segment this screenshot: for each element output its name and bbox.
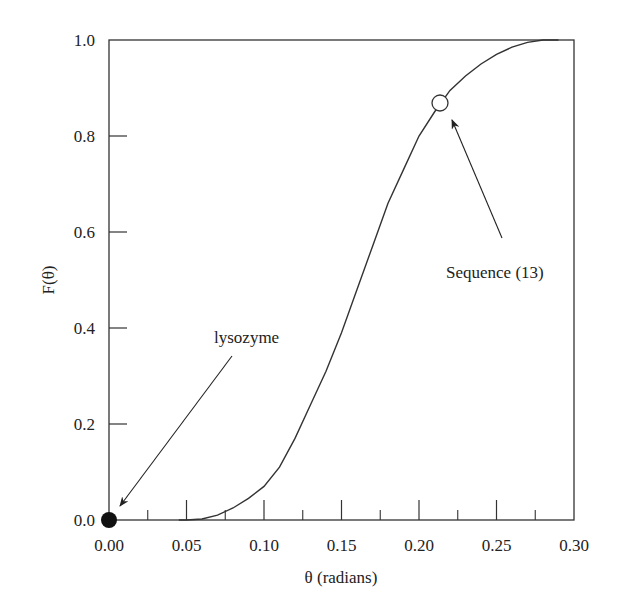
x-tick-label: 0.15 (327, 536, 357, 555)
lysozyme-marker (101, 512, 117, 528)
x-tick-label: 0.10 (249, 536, 279, 555)
sequence-arrow (452, 120, 502, 238)
x-tick-label: 0.00 (94, 536, 124, 555)
lysozyme-label: lysozyme (214, 328, 279, 347)
x-axis-ticks: 0.000.050.100.150.200.250.30 (94, 500, 589, 555)
y-tick-label: 1.0 (74, 31, 95, 50)
sequence-label: Sequence (13) (446, 263, 544, 282)
sequence-13-marker (432, 95, 448, 111)
y-tick-label: 0.4 (74, 319, 96, 338)
chart: 0.00.20.40.60.81.0 0.000.050.100.150.200… (0, 0, 618, 616)
x-tick-label: 0.30 (559, 536, 589, 555)
x-tick-label: 0.20 (404, 536, 434, 555)
x-axis-label: θ (radians) (305, 568, 378, 587)
x-tick-label: 0.25 (482, 536, 512, 555)
y-tick-label: 0.8 (74, 127, 95, 146)
y-axis-ticks: 0.00.20.40.60.81.0 (74, 31, 127, 530)
y-tick-label: 0.6 (74, 223, 95, 242)
y-tick-label: 0.2 (74, 415, 95, 434)
lysozyme-arrow (120, 356, 232, 506)
x-tick-label: 0.05 (172, 536, 202, 555)
y-axis-label: F(θ) (39, 266, 58, 295)
y-tick-label: 0.0 (74, 511, 95, 530)
